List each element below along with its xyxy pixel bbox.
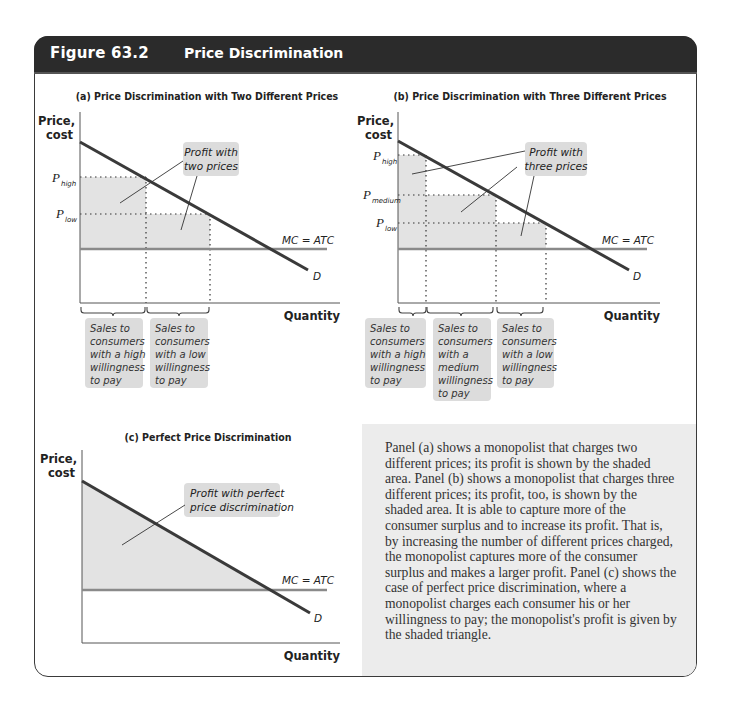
svg-text:with a: with a <box>438 349 469 360</box>
caption-box: Panel (a) shows a monopolist that charge… <box>362 424 696 676</box>
panel-a-y-label-1: Price, <box>38 114 75 128</box>
panel-a-y-label-2: cost <box>46 128 74 142</box>
svg-text:Profit with: Profit with <box>529 146 583 158</box>
panel-b-p-low: Plow <box>375 215 397 233</box>
panel-b-y-label-1: Price, <box>357 114 394 128</box>
svg-text:to pay: to pay <box>502 375 535 386</box>
svg-text:consumers: consumers <box>370 336 425 347</box>
svg-text:with a high: with a high <box>90 349 146 360</box>
panel-a: (a) Price Discrimination with Two Differ… <box>38 90 341 388</box>
svg-text:Sales to: Sales to <box>502 323 542 334</box>
panel-c-title: (c) Perfect Price Discrimination <box>125 431 292 443</box>
panel-c-d-label: D <box>314 612 322 624</box>
svg-text:two prices: two prices <box>184 160 239 172</box>
panel-b-x-label: Quantity <box>604 309 661 323</box>
panel-c-mc-label: MC = ATC <box>282 574 335 586</box>
panel-a-title: (a) Price Discrimination with Two Differ… <box>76 90 339 102</box>
svg-text:willingness: willingness <box>502 362 557 373</box>
svg-text:with a high: with a high <box>370 349 426 360</box>
panel-c-x-label: Quantity <box>284 649 341 663</box>
panel-c: (c) Perfect Price Discrimination Price, … <box>40 431 341 663</box>
svg-text:with a low: with a low <box>155 349 207 360</box>
panel-a-profit-low <box>146 214 210 249</box>
panel-a-d-label: D <box>313 270 321 282</box>
panel-a-p-low: Plow <box>55 206 77 224</box>
svg-text:with a low: with a low <box>502 349 554 360</box>
panel-b-y-label-2: cost <box>365 128 393 142</box>
svg-text:consumers: consumers <box>502 336 557 347</box>
panel-a-mc-label: MC = ATC <box>282 234 335 246</box>
panel-a-x-label: Quantity <box>284 309 341 323</box>
svg-text:Profit with: Profit with <box>184 146 238 158</box>
svg-text:to pay: to pay <box>90 375 123 386</box>
svg-text:willingness: willingness <box>370 362 425 373</box>
panel-b: (b) Price Discrimination with Three Diff… <box>357 90 667 401</box>
svg-text:Sales to: Sales to <box>155 323 195 334</box>
svg-text:consumers: consumers <box>155 336 210 347</box>
panel-b-p-medium: Pmedium <box>362 187 401 205</box>
panel-b-p-high: Phigh <box>372 148 397 166</box>
panel-c-y-label-1: Price, <box>40 452 77 466</box>
panel-b-mc-label: MC = ATC <box>602 234 655 246</box>
svg-text:willingness: willingness <box>155 362 210 373</box>
svg-text:consumers: consumers <box>90 336 145 347</box>
panel-b-d-label: D <box>633 270 641 282</box>
svg-text:Sales to: Sales to <box>370 323 410 334</box>
svg-text:price discrimination: price discrimination <box>189 501 294 513</box>
svg-text:three prices: three prices <box>525 160 588 172</box>
svg-text:medium: medium <box>438 362 479 373</box>
svg-text:to pay: to pay <box>155 375 188 386</box>
panel-c-y-label-2: cost <box>48 466 76 480</box>
panel-b-profit-medium <box>426 195 496 249</box>
svg-text:Sales to: Sales to <box>438 323 478 334</box>
caption-text: Panel (a) shows a monopolist that charge… <box>385 440 678 643</box>
svg-text:willingness: willingness <box>90 362 145 373</box>
svg-text:Profit with perfect: Profit with perfect <box>190 487 285 499</box>
panel-b-profit-high <box>398 155 426 249</box>
svg-text:willingness: willingness <box>438 375 493 386</box>
svg-text:to pay: to pay <box>370 375 403 386</box>
svg-text:Sales to: Sales to <box>90 323 130 334</box>
panel-b-title: (b) Price Discrimination with Three Diff… <box>393 90 666 102</box>
panel-a-profit-high <box>80 177 146 249</box>
panel-a-p-high: Phigh <box>51 170 76 188</box>
svg-text:to pay: to pay <box>438 388 471 399</box>
svg-text:consumers: consumers <box>438 336 493 347</box>
